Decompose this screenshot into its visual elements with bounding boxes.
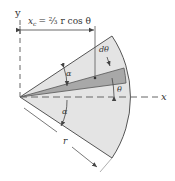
formula-xc: xc= ⅔ r cos θ: [28, 16, 91, 27]
dtheta-label: dθ: [99, 45, 109, 54]
radius-extension-line: [100, 158, 112, 172]
alpha-upper-label: α: [66, 69, 72, 78]
alpha-lower-label: α: [62, 107, 68, 116]
radius-label: r: [63, 136, 68, 146]
radius-dimension-line-b: [72, 147, 97, 167]
theta-label: θ: [117, 85, 122, 94]
x-axis-label: x: [161, 91, 167, 102]
sector-centroid-diagram: y x xc= ⅔ r cos θ dθ θ α α r: [0, 0, 175, 181]
centroid-dot: [94, 77, 97, 80]
y-axis-label: y: [14, 7, 21, 18]
